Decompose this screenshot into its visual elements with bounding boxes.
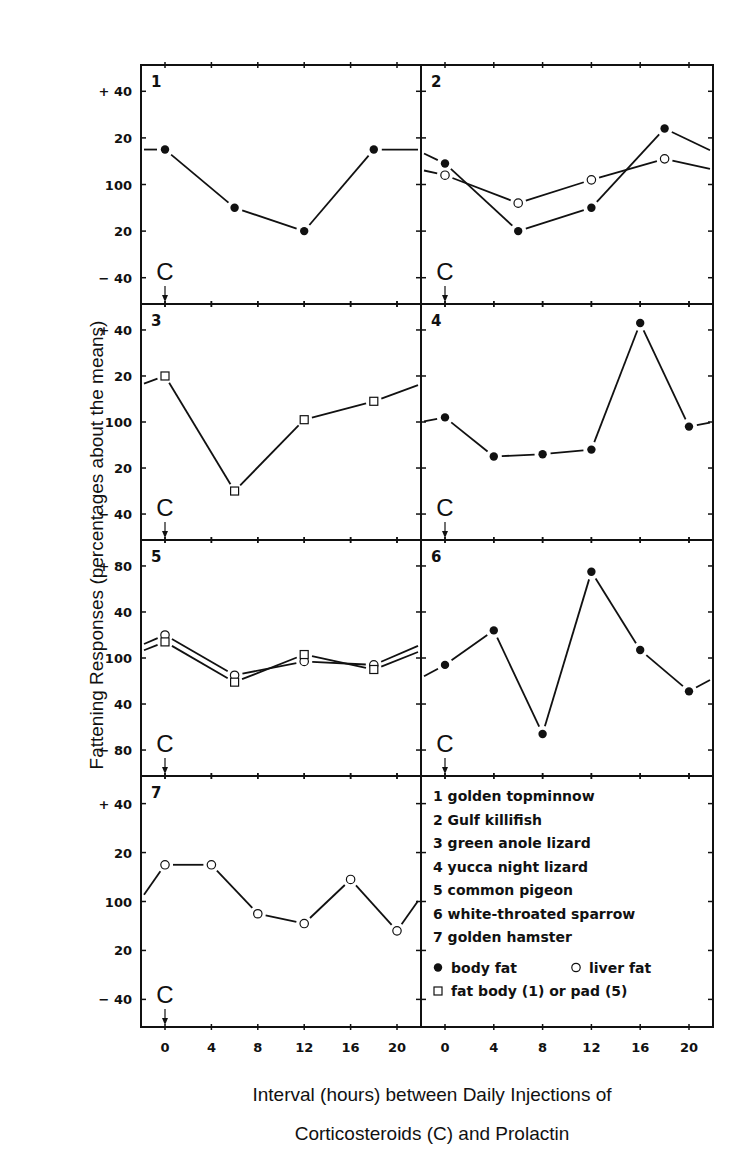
data-point [434, 987, 442, 995]
y-tick-label: 100 [105, 651, 132, 666]
series-line [497, 638, 539, 727]
panel-number: 4 [431, 312, 441, 330]
legend-marker-label: liver fat [589, 960, 652, 976]
legend-species: 3 green anole lizard [433, 835, 591, 851]
series-line [144, 871, 160, 894]
data-point [685, 687, 693, 695]
series-line [381, 385, 418, 398]
y-tick-label: 20 [114, 846, 132, 861]
panel-2: 2C [424, 73, 710, 302]
data-point [636, 646, 644, 654]
series-line [144, 638, 158, 644]
injection-label: C [436, 494, 453, 521]
series-line [144, 645, 158, 650]
data-point [490, 626, 498, 634]
x-tick-label: 12 [582, 1040, 600, 1055]
series-line [526, 210, 584, 228]
series-line [672, 132, 710, 150]
data-point [300, 919, 308, 927]
y-tick-label: 100 [105, 178, 132, 193]
data-point [538, 730, 546, 738]
y-tick-label: 100 [105, 415, 132, 430]
data-point [231, 487, 239, 495]
x-tick-label: 8 [253, 1040, 262, 1055]
data-point [587, 176, 595, 184]
data-point [490, 452, 498, 460]
x-axis: 048121620048121620 [160, 1040, 698, 1055]
y-tick-label: − 40 [98, 992, 132, 1007]
legend-species: 1 golden topminnow [433, 788, 595, 804]
series-line [551, 450, 584, 453]
panel-4: 4C [424, 312, 710, 538]
data-point [587, 568, 595, 576]
x-tick-label: 12 [295, 1040, 313, 1055]
series-line [240, 425, 298, 485]
data-point [441, 159, 449, 167]
data-point [207, 861, 215, 869]
x-tick-label: 20 [388, 1040, 406, 1055]
series-line [545, 579, 589, 726]
data-point [346, 875, 354, 883]
x-axis-label: Interval (hours) between Daily Injection… [252, 1084, 612, 1144]
panel-3: 3C [144, 312, 418, 538]
chart-figure: Fattening Responses (percentages about t… [0, 0, 750, 1175]
series-line [266, 915, 297, 921]
y-tick-label: − 80 [98, 743, 132, 758]
data-point [300, 651, 308, 659]
panel-number: 1 [151, 73, 161, 91]
legend-species: 2 Gulf killifish [433, 812, 542, 828]
y-tick-label: 100 [105, 895, 132, 910]
data-point [587, 445, 595, 453]
series-line [451, 422, 487, 451]
series-line [646, 655, 683, 686]
series-line [424, 669, 438, 677]
data-point [370, 666, 378, 674]
data-point [660, 124, 668, 132]
panel-6: 6C [424, 548, 710, 774]
series-line [144, 379, 157, 384]
legend-species: 5 common pigeon [433, 882, 573, 898]
data-point [370, 145, 378, 153]
panel-7: 7C [144, 784, 418, 1025]
y-tick-label: 20 [114, 369, 132, 384]
series-line [424, 419, 437, 421]
series-line [172, 646, 228, 678]
figure-frame [141, 65, 713, 1027]
panel-number: 7 [151, 784, 161, 802]
series-line [526, 182, 584, 200]
series-line [697, 423, 710, 425]
data-point [514, 199, 522, 207]
series-line [502, 455, 535, 457]
series-line [356, 885, 392, 925]
injection-label: C [156, 730, 173, 757]
series-line [452, 635, 488, 660]
data-point [231, 678, 239, 686]
y-tick-label: − 40 [98, 271, 132, 286]
data-point [161, 861, 169, 869]
y-tick-label: 20 [114, 224, 132, 239]
series-line [172, 639, 228, 671]
y-tick-label: 40 [114, 605, 132, 620]
series-line [696, 680, 710, 688]
x-tick-label: 8 [538, 1040, 547, 1055]
panel-grid: + 402010020− 40+ 402010020− 40+ 80401004… [98, 62, 713, 1030]
series-line [242, 657, 297, 679]
svg-text:Fattening Responses (percentag: Fattening Responses (percentages about t… [86, 321, 107, 770]
panel-number: 5 [151, 548, 161, 566]
injection-label: C [156, 494, 173, 521]
svg-text:Interval (hours) between Daily: Interval (hours) between Daily Injection… [252, 1084, 612, 1105]
data-point [441, 661, 449, 669]
x-tick-label: 4 [489, 1040, 498, 1055]
data-point [370, 397, 378, 405]
series-line [217, 871, 252, 908]
panel-number: 6 [431, 548, 441, 566]
data-point [230, 204, 238, 212]
y-tick-label: 20 [114, 461, 132, 476]
panel-5: 5C [144, 548, 418, 774]
y-tick-label: + 80 [98, 559, 132, 574]
data-point [660, 155, 668, 163]
series-line [171, 155, 228, 203]
data-point [254, 910, 262, 918]
data-point [572, 963, 580, 971]
data-point [161, 145, 169, 153]
